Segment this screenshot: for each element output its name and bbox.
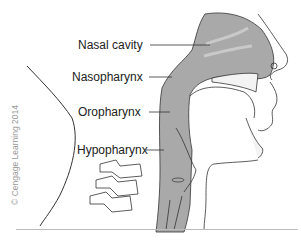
- label-nasopharynx: Nasopharynx: [72, 70, 143, 84]
- label-hypopharynx: Hypopharynx: [77, 143, 148, 157]
- label-nasal-cavity: Nasal cavity: [78, 38, 143, 52]
- label-oropharynx: Oropharynx: [78, 105, 141, 119]
- divider-line: [16, 229, 298, 230]
- pharynx-anatomy-illustration: [0, 0, 301, 240]
- copyright-notice: © Cengage Learning 2014: [10, 100, 20, 210]
